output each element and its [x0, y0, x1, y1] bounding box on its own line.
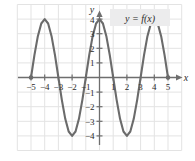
y-tick-label: 4 — [90, 15, 95, 25]
x-axis-label: x — [183, 72, 189, 83]
graph-figure: −5−4−3−2−112345 −4−3−2−11234 x y y = f(x… — [0, 0, 195, 161]
coordinate-plane: −5−4−3−2−112345 −4−3−2−11234 x y y = f(x… — [0, 0, 195, 161]
y-tick-label: −1 — [85, 88, 95, 98]
x-tick-label: 1 — [111, 82, 116, 92]
y-tick-label: 3 — [90, 29, 95, 39]
x-tick-label: −3 — [54, 82, 64, 92]
x-tick-label: −2 — [67, 82, 77, 92]
curve-endpoint-dot — [29, 75, 34, 80]
x-tick-label: −5 — [26, 82, 36, 92]
curve-label-group: y = f(x) — [110, 9, 170, 26]
y-axis-label: y — [89, 4, 95, 15]
y-tick-label: −2 — [85, 102, 95, 112]
x-tick-label: 3 — [138, 82, 143, 92]
x-tick-label: 5 — [166, 82, 171, 92]
y-tick-label: 1 — [90, 58, 95, 68]
y-tick-label: −3 — [85, 117, 95, 127]
x-tick-label: 2 — [125, 82, 130, 92]
curve-endpoint-dot — [166, 75, 171, 80]
x-tick-label: −4 — [40, 82, 50, 92]
y-tick-label: −4 — [85, 131, 95, 141]
y-tick-label: 2 — [90, 44, 95, 54]
curve-label: y = f(x) — [124, 13, 156, 25]
x-tick-label: 4 — [152, 82, 157, 92]
